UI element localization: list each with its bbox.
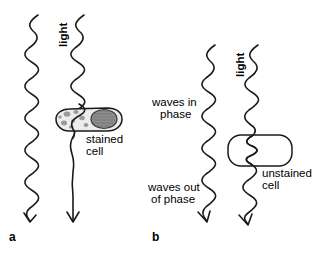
panel-b-light-label: light bbox=[235, 53, 247, 77]
unstained-cell-outline bbox=[228, 135, 292, 166]
waves-out-of-phase-label-line1: waves out bbox=[148, 181, 200, 194]
panel-a-left-wave bbox=[25, 15, 39, 221]
panel-b-letter: b bbox=[152, 231, 159, 243]
panel-a-left-wave-arrowhead bbox=[24, 213, 36, 222]
diagram-svg bbox=[0, 0, 332, 255]
waves-out-of-phase-label-line2: of phase bbox=[151, 193, 195, 206]
waves-in-phase-label-line1: waves in bbox=[152, 96, 197, 109]
stained-cell-label-line2: cell bbox=[86, 145, 103, 158]
panel-b-left-wave bbox=[202, 45, 216, 221]
stained-cell-label-line1: stained bbox=[86, 133, 123, 146]
waves-in-phase-label-line2: phase bbox=[160, 108, 191, 121]
panel-a-group bbox=[24, 15, 122, 222]
figure-canvas: light stained cell a light waves in phas… bbox=[0, 0, 332, 255]
panel-a-letter: a bbox=[9, 231, 16, 243]
panel-b-right-wave-upper bbox=[245, 45, 259, 136]
unstained-cell-label-line1: unstained bbox=[262, 167, 312, 180]
panel-b-right-wave-in-cell bbox=[246, 136, 257, 164]
unstained-cell-label-line2: cell bbox=[262, 179, 279, 192]
panel-a-light-label: light bbox=[58, 23, 70, 47]
panel-b-right-wave-lower bbox=[243, 164, 257, 224]
panel-b-right-wave-in-cell-overlay bbox=[246, 136, 257, 164]
